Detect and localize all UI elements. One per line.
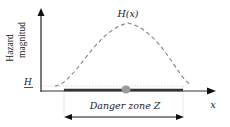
hazard-diagram: Hazard magnitud H H(x) x Danger zone Z [0, 0, 230, 127]
zone-center-marker [122, 86, 131, 94]
threshold-label: H [23, 77, 32, 87]
curve-label: H(x) [116, 8, 138, 19]
y-axis-label-line2: magnitud [17, 22, 27, 58]
danger-zone-label: Danger zone Z [89, 100, 161, 111]
y-axis-arrow-icon [38, 8, 45, 16]
x-axis-label: x [210, 99, 216, 110]
hazard-curve [55, 23, 190, 86]
x-axis-arrow-icon [207, 88, 216, 95]
y-axis-label-line1: Hazard [5, 34, 15, 62]
zone-arrow-left-icon [64, 114, 72, 120]
